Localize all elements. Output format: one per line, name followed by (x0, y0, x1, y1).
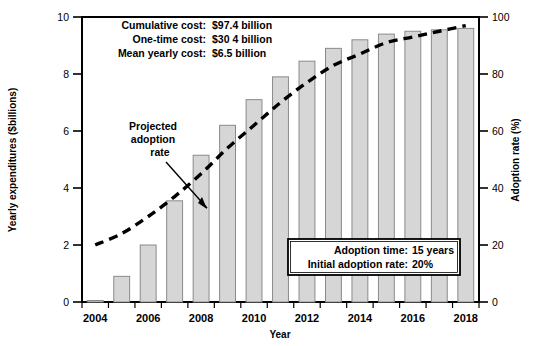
adoption-parameters-callout: Adoption time: 15 years Initial adoption… (288, 239, 460, 275)
bar-2006 (140, 245, 156, 302)
adoption-time-label: Adoption time: (334, 244, 408, 256)
y-tick-label-8: 8 (63, 68, 69, 80)
y-tick-label-0: 0 (63, 296, 69, 308)
mean-yearly-cost-value: $6.5 billion (212, 47, 266, 59)
cumulative-cost-value: $97.4 billion (212, 19, 272, 31)
y-axis-left-title: Yearly expenditures ($billions) (7, 88, 18, 233)
pointer-label-line-2: adoption (131, 133, 175, 145)
bar-2010 (246, 100, 262, 302)
y2-tick-label-0: 0 (492, 296, 498, 308)
pointer-label-line-3: rate (150, 146, 169, 158)
x-tick-label-2008: 2008 (189, 312, 213, 324)
cost-summary-annotation: Cumulative cost: $97.4 billion One-time … (118, 19, 272, 59)
y-tick-label-2: 2 (63, 239, 69, 251)
pointer-label-line-1: Projected (129, 120, 177, 132)
x-tick-label-2014: 2014 (348, 312, 373, 324)
y2-tick-label-80: 80 (492, 68, 504, 80)
cumulative-cost-label: Cumulative cost: (121, 19, 206, 31)
expenditure-adoption-chart: 0246810 020406080100 2004200620082010201… (0, 0, 533, 346)
x-tick-label-2010: 2010 (242, 312, 266, 324)
initial-adoption-rate-value: 20% (412, 258, 434, 270)
bar-2004 (87, 301, 103, 303)
y2-tick-label-100: 100 (492, 11, 510, 23)
y2-tick-label-20: 20 (492, 239, 504, 251)
one-time-cost-value: $30 4 billion (212, 33, 272, 45)
adoption-time-value: 15 years (412, 244, 454, 256)
one-time-cost-label: One-time cost: (132, 33, 206, 45)
chart-container: 0246810 020406080100 2004200620082010201… (0, 0, 533, 346)
x-axis-title: Year (269, 329, 290, 340)
y-tick-label-10: 10 (57, 11, 69, 23)
y2-tick-label-40: 40 (492, 182, 504, 194)
bar-2007 (167, 201, 183, 302)
mean-yearly-cost-label: Mean yearly cost: (118, 47, 206, 59)
x-tick-label-2012: 2012 (295, 312, 319, 324)
y2-tick-label-60: 60 (492, 125, 504, 137)
y-axis-right-title: Adoption rate (%) (510, 118, 521, 201)
y-tick-label-4: 4 (63, 182, 69, 194)
x-tick-label-2018: 2018 (454, 312, 478, 324)
x-tick-label-2004: 2004 (83, 312, 108, 324)
x-tick-label-2006: 2006 (136, 312, 160, 324)
bar-2011 (273, 77, 289, 302)
initial-adoption-rate-label: Initial adoption rate: (308, 258, 408, 270)
x-tick-label-2016: 2016 (401, 312, 425, 324)
bar-2005 (114, 276, 130, 302)
chart-background (0, 0, 533, 346)
y-tick-label-6: 6 (63, 125, 69, 137)
